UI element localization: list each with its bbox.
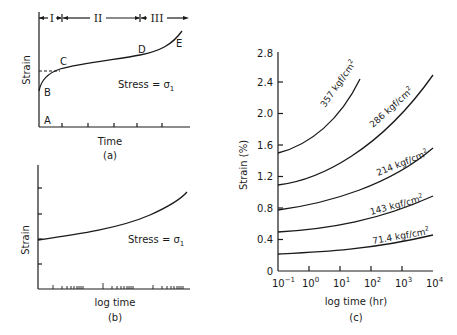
series-357	[278, 79, 360, 153]
svg-text:10−1: 10−1	[272, 276, 295, 289]
svg-text:102: 102	[364, 276, 381, 289]
b-stress-label: Stress = σ1	[128, 234, 184, 248]
label-71-4: 71.4 kgf/cm2	[371, 224, 430, 246]
figure: I II III A B C D E Stress = σ1 Strain Ti…	[0, 0, 457, 335]
a-stress-label: Stress = σ1	[118, 79, 174, 93]
svg-text:0.4: 0.4	[257, 234, 273, 245]
label-357: 357 kgf/cm2	[317, 57, 358, 109]
c-y-ticks	[278, 82, 283, 240]
svg-text:2.4: 2.4	[257, 77, 273, 88]
svg-text:0: 0	[267, 266, 273, 277]
point-E: E	[176, 38, 182, 49]
b-x-label: log time	[94, 297, 135, 308]
point-A: A	[44, 115, 51, 126]
panel-b-log-time-curve: Stress = σ1 Strain log time (b)	[20, 165, 190, 323]
svg-text:100: 100	[302, 276, 319, 289]
series-286	[278, 75, 433, 185]
svg-text:2.0: 2.0	[257, 108, 273, 119]
b-x-log-ticks	[53, 283, 183, 289]
point-C: C	[60, 56, 67, 67]
c-y-tick-labels: 0 0.4 0.8 1.2 1.6 2.0 2.4 2.8	[257, 48, 273, 277]
panel-c-strain-vs-log-time: 0 0.4 0.8 1.2 1.6 2.0 2.4 2.8 10−1 100 1…	[238, 48, 444, 323]
c-x-tick-labels: 10−1 100 101 102 103 104	[272, 276, 444, 289]
svg-text:0.8: 0.8	[257, 203, 273, 214]
b-y-label: Strain	[20, 225, 31, 255]
a-x-label: Time	[97, 136, 122, 147]
b-caption: (b)	[108, 312, 122, 323]
svg-text:101: 101	[333, 276, 350, 289]
svg-text:103: 103	[395, 276, 412, 289]
label-214: 214 kgf/cm2	[374, 146, 429, 178]
region-III-label: III	[150, 12, 163, 25]
svg-text:104: 104	[426, 276, 444, 289]
c-x-label: log time (hr)	[325, 296, 388, 307]
c-x-ticks	[309, 266, 402, 271]
point-B: B	[44, 87, 51, 98]
c-caption: (c)	[349, 312, 362, 323]
b-strain-curve	[38, 192, 187, 240]
a-caption: (a)	[103, 150, 117, 161]
a-y-label: Strain	[21, 55, 32, 85]
svg-text:1.2: 1.2	[257, 171, 273, 182]
label-143: 143 kgf/cm2	[368, 191, 424, 217]
svg-text:1.6: 1.6	[257, 140, 273, 151]
region-I-label: I	[50, 12, 54, 25]
c-y-label: Strain (%)	[238, 140, 249, 190]
region-II-label: II	[94, 12, 103, 25]
region-arrows	[39, 14, 189, 22]
point-D: D	[138, 44, 146, 55]
svg-text:2.8: 2.8	[257, 48, 273, 59]
panel-a-creep-curve: I II III A B C D E Stress = σ1 Strain Ti…	[21, 12, 190, 161]
